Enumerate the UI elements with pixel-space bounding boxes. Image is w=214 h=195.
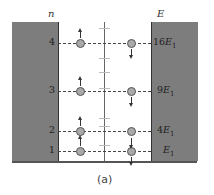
e-axis-label: E <box>157 8 164 19</box>
arrow-up-icon <box>80 79 81 86</box>
particle-right-level-2 <box>127 127 136 136</box>
arrow-up-icon <box>80 31 81 38</box>
level-2-n-label: 2 <box>43 124 55 135</box>
level-4-n-label: 4 <box>43 36 55 47</box>
arrow-down-icon <box>131 97 132 104</box>
tick-mark <box>99 58 110 59</box>
energy-level-2-line <box>58 131 151 132</box>
particle-left-level-3 <box>76 87 85 96</box>
level-2-energy-label: 4E1 <box>157 124 174 138</box>
tick-mark <box>99 126 110 127</box>
level-3-n-label: 3 <box>43 84 55 95</box>
arrow-up-icon <box>80 138 81 146</box>
particle-right-level-4 <box>127 39 136 48</box>
level-1-energy-label: E1 <box>163 144 174 158</box>
well-floor <box>12 161 197 163</box>
tick-mark <box>99 28 110 29</box>
n-axis-label: n <box>48 8 54 19</box>
arrow-down-icon <box>131 138 132 146</box>
figure-caption: (a) <box>97 173 112 186</box>
arrow-down-icon <box>131 49 132 56</box>
particle-left-level-4 <box>76 39 85 48</box>
tick-mark <box>99 118 110 119</box>
arrow-down-icon <box>131 157 132 163</box>
energy-level-3-line <box>58 91 151 92</box>
tick-mark <box>99 145 110 146</box>
level-4-energy-label: 16E1 <box>153 36 177 50</box>
energy-level-1-line <box>58 151 151 152</box>
level-1-n-label: 1 <box>43 144 55 155</box>
arrow-up-icon <box>80 119 81 126</box>
tick-mark <box>99 72 110 73</box>
particle-left-level-1 <box>76 147 85 156</box>
tick-mark <box>99 88 110 89</box>
energy-level-4-line <box>58 43 151 44</box>
particle-right-level-3 <box>127 87 136 96</box>
level-3-energy-label: 9E1 <box>157 84 174 98</box>
